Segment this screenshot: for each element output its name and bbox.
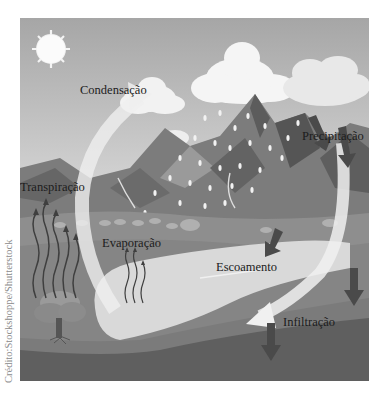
label-runoff: Escoamento xyxy=(216,261,277,274)
label-precipitation: Precipitação xyxy=(302,130,364,143)
label-evaporation: Evaporação xyxy=(102,237,161,250)
label-transpiration: Transpiração xyxy=(20,181,85,194)
image-credit: Crédito:Stockshoppe/Shutterstock xyxy=(3,240,14,384)
label-condensation: Condensação xyxy=(80,84,147,97)
water-cycle-illustration: Condensação Precipitação Transpiração Ev… xyxy=(20,18,369,381)
label-infiltration: Infiltração xyxy=(283,316,335,329)
